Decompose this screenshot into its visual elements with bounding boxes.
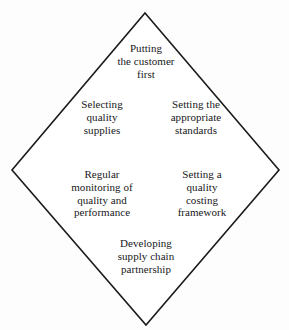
label-regular-monitoring-of-quality-and-performance: Regular monitoring of quality and perfor… [52, 168, 152, 219]
quality-diamond-diagram: Putting the customer first Selecting qua… [0, 0, 289, 330]
label-setting-a-quality-costing-framework: Setting a quality costing framework [158, 168, 246, 219]
label-putting-the-customer-first: Putting the customer first [94, 42, 198, 80]
label-selecting-quality-supplies: Selecting quality supplies [58, 98, 146, 136]
label-setting-the-appropriate-standards: Setting the appropriate standards [150, 98, 242, 136]
label-developing-supply-chain-partnership: Developing supply chain partnership [94, 237, 198, 275]
